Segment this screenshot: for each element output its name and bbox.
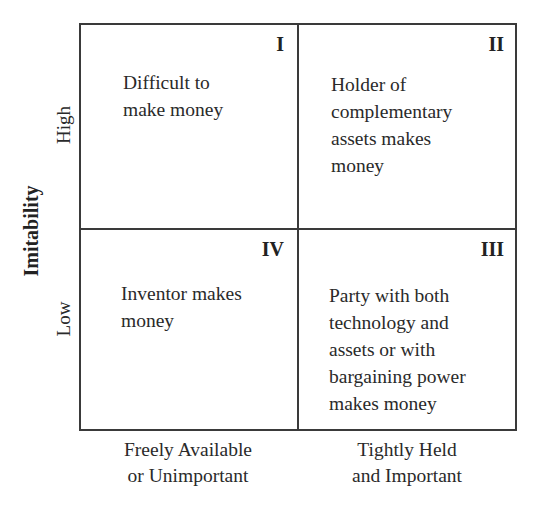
quadrant-iii-text: Party with both technology and assets or…: [329, 282, 466, 417]
quadrant-iv: IV Inventor makes money: [81, 230, 297, 431]
quadrant-i-text: Difficult to make money: [123, 69, 223, 123]
quadrant-iii: III Party with both technology and asset…: [299, 230, 517, 431]
quadrant-i: I Difficult to make money: [81, 25, 297, 228]
x-axis-label-left: Freely Available or Unimportant: [79, 437, 297, 489]
matrix-grid: I Difficult to make money II Holder of c…: [79, 23, 517, 431]
quadrant-ii-numeral: II: [488, 34, 504, 54]
y-axis-label-low: Low: [54, 302, 74, 337]
quadrant-iv-text: Inventor makes money: [121, 280, 242, 334]
y-axis-title: Imitability: [20, 185, 42, 276]
quadrant-ii-text: Holder of complementary assets makes mon…: [331, 71, 452, 179]
quadrant-iii-numeral: III: [481, 239, 504, 259]
y-axis-label-high: High: [54, 106, 74, 144]
quadrant-i-numeral: I: [276, 34, 284, 54]
quadrant-ii: II Holder of complementary assets makes …: [299, 25, 517, 228]
quadrant-iv-numeral: IV: [262, 239, 284, 259]
x-axis-label-right: Tightly Held and Important: [298, 437, 516, 489]
